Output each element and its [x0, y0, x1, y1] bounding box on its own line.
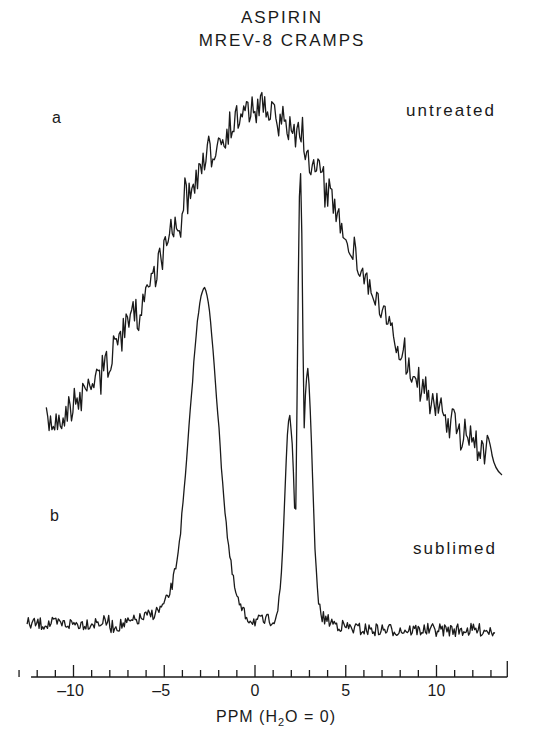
tick-label: –10	[51, 682, 91, 700]
x-axis-label: PPM (H2O = 0)	[0, 708, 552, 728]
spectrum-b-sublimed	[27, 174, 495, 637]
x-axis	[19, 661, 507, 677]
x-axis-label-pre: PPM (H	[216, 708, 278, 725]
x-axis-label-post: O = 0)	[285, 708, 336, 725]
spectrum-plot	[0, 0, 552, 748]
tick-label: 0	[235, 682, 275, 700]
tick-label: 10	[417, 682, 457, 700]
tick-label: –5	[141, 682, 181, 700]
spectrum-a-untreated	[46, 93, 502, 476]
tick-label: 5	[326, 682, 366, 700]
